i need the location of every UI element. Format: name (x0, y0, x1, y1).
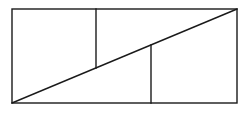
diagonal-line (12, 9, 237, 103)
geometric-diagram (0, 0, 248, 117)
